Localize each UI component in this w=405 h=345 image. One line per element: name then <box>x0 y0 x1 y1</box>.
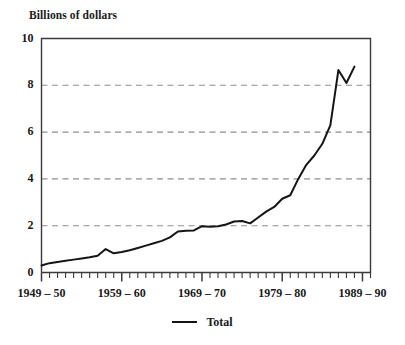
axes-frame <box>42 39 371 273</box>
x-axis-ticks <box>42 273 371 282</box>
y-axis-tick-label: 4 <box>8 171 34 186</box>
x-axis-tick-label: 1959 – 60 <box>98 286 146 301</box>
chart-figure: Billions of dollars 0246810 1949 – 50195… <box>0 0 405 345</box>
gridlines-group <box>42 85 371 225</box>
legend-label-total: Total <box>206 316 232 328</box>
x-axis-tick-label: 1949 – 50 <box>18 286 66 301</box>
x-axis-tick-label: 1989 – 90 <box>338 286 386 301</box>
chart-legend: Total <box>0 316 405 328</box>
y-axis-tick-label: 6 <box>8 124 34 139</box>
y-axis-tick-label: 0 <box>8 265 34 280</box>
y-axis-tick-label: 8 <box>8 77 34 92</box>
axis-frame <box>42 39 371 273</box>
x-axis-tick-label: 1979 – 80 <box>258 286 306 301</box>
data-series-total <box>42 67 355 266</box>
y-axis-tick-label: 10 <box>8 31 34 46</box>
series-line <box>42 67 355 266</box>
y-axis-tick-label: 2 <box>8 218 34 233</box>
x-axis-tick-label: 1969 – 70 <box>178 286 226 301</box>
legend-line-swatch <box>172 321 197 323</box>
